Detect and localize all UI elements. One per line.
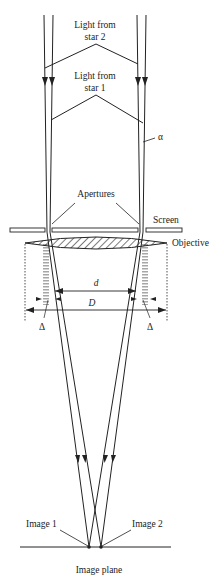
beam-star1-left	[50, 15, 53, 232]
apertures-leader-left	[52, 203, 75, 224]
image1-leader	[60, 530, 88, 546]
label-delta-left: Δ	[39, 322, 45, 332]
beam-star2-right	[143, 15, 146, 232]
apertures-leader-right	[116, 203, 139, 224]
down-arrows-bottom	[75, 455, 116, 463]
wavefront-star2	[45, 44, 138, 68]
arrow-down-icon	[111, 455, 116, 463]
label-apertures: Apertures	[77, 189, 115, 199]
label-image-plane: Image plane	[76, 565, 123, 575]
image2-leader	[102, 530, 131, 546]
stellar-interferometer-diagram: Light from star 2 Light from star 1 α Ap…	[0, 0, 221, 587]
delta-leader-right	[143, 300, 150, 318]
label-objective: Objective	[172, 238, 209, 248]
arrow-down-icon	[142, 77, 148, 86]
wavefront-star1	[51, 95, 143, 123]
arrow-down-icon	[82, 455, 87, 463]
arrow-down-icon	[103, 455, 108, 463]
label-star1-line1: Light from	[74, 71, 116, 81]
beam-star1-right	[137, 15, 140, 232]
label-star1-line2: star 1	[85, 83, 106, 93]
alpha-leader	[143, 138, 155, 142]
beam-star2-left	[44, 15, 47, 232]
label-delta-right: Δ	[147, 322, 153, 332]
label-image1: Image 1	[26, 519, 57, 529]
delta-leader-left	[44, 300, 48, 318]
label-alpha: α	[158, 132, 163, 142]
incoming-beams	[44, 15, 146, 232]
label-screen: Screen	[153, 215, 179, 225]
arrow-down-icon	[42, 77, 48, 86]
label-image2: Image 2	[132, 519, 163, 529]
delta-arrow-icon	[36, 297, 42, 301]
arrow-down-icon	[49, 77, 55, 86]
label-star2-line2: star 2	[85, 32, 106, 42]
label-d: d	[94, 278, 99, 288]
label-star2-line1: Light from	[74, 20, 116, 30]
arrow-down-icon	[135, 77, 141, 86]
delta-arrows	[36, 297, 156, 301]
label-D: D	[88, 298, 96, 308]
screen	[10, 228, 182, 232]
delta-arrow-icon	[150, 297, 156, 301]
